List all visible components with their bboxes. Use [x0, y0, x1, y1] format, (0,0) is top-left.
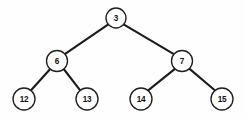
node-label-15: 15	[218, 95, 227, 104]
tree-edge-6-13	[64, 69, 81, 91]
tree-node-6[interactable]: 6	[47, 51, 68, 72]
node-label-7: 7	[180, 57, 185, 66]
node-label-14: 14	[137, 95, 146, 104]
tree-edge-3-6	[64, 24, 108, 54]
tree-node-15[interactable]: 15	[211, 88, 233, 110]
tree-node-14[interactable]: 14	[130, 88, 152, 110]
tree-edge-3-7	[124, 24, 175, 54]
binary-tree-diagram: 36712131415	[0, 0, 245, 119]
tree-node-3[interactable]: 3	[106, 8, 126, 28]
tree-node-13[interactable]: 13	[76, 88, 98, 110]
tree-edge-6-12	[31, 69, 51, 91]
tree-node-7[interactable]: 7	[172, 51, 193, 72]
node-label-12: 12	[20, 95, 29, 104]
nodes-layer: 36712131415	[13, 8, 233, 110]
node-label-13: 13	[83, 95, 92, 104]
node-label-6: 6	[55, 57, 60, 66]
tree-node-12[interactable]: 12	[13, 88, 35, 110]
tree-edge-7-15	[189, 68, 215, 90]
node-label-3: 3	[114, 14, 119, 23]
tree-edge-7-14	[148, 69, 175, 91]
tree-canvas: 36712131415	[0, 0, 245, 119]
